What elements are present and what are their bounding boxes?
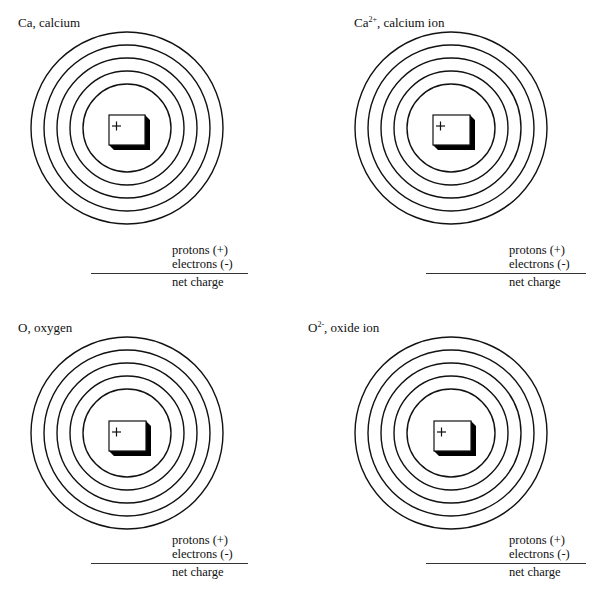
- sum-line: [426, 563, 586, 564]
- panel-oxide-ion: O2-, oxide ion protons (+) electrons (-)…: [0, 0, 616, 591]
- nucleus-box: [434, 421, 476, 456]
- electrons-label: electrons (-): [509, 547, 570, 562]
- net-charge-label: net charge: [509, 565, 560, 580]
- bohr-atom-diagram: [0, 0, 616, 591]
- protons-label: protons (+): [509, 533, 565, 548]
